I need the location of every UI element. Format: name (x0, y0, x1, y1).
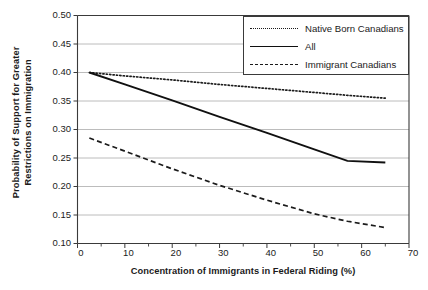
data-series-group (89, 73, 385, 228)
solid-line-key (250, 41, 298, 53)
series-line (89, 73, 385, 163)
dotted-line-key (250, 23, 298, 35)
chart-legend: Native Born Canadians All Immigrant Cana… (243, 16, 409, 75)
series-line (89, 73, 385, 99)
legend-item-native-born: Native Born Canadians (250, 20, 404, 37)
legend-item-immigrant: Immigrant Canadians (250, 56, 396, 73)
legend-label: Immigrant Canadians (305, 60, 396, 70)
chart-figure: Probability of Support for Greater Restr… (0, 0, 428, 290)
legend-label: Native Born Canadians (305, 24, 404, 34)
legend-label: All (305, 42, 316, 52)
series-line (89, 138, 385, 227)
dashed-line-key (250, 59, 298, 71)
legend-item-all: All (250, 38, 316, 55)
